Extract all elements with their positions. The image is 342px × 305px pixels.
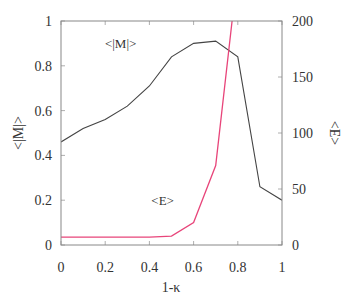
y-right-tick-label: 50 [292,182,306,197]
y-right-tick-label: 0 [292,238,299,253]
series-line-magnetization [61,41,282,200]
series-line-energy [61,0,238,237]
plot-frame [61,21,282,245]
x-axis-label: 1-κ [162,280,181,295]
y-axis-label-left: <|M|> [11,116,26,150]
y-left-tick-label: 0.8 [35,59,53,74]
y-left-tick-label: 0 [45,238,52,253]
y-left-tick-label: 0.2 [35,193,53,208]
chart: 00.20.40.60.8100.20.40.60.81050100150200… [0,0,342,305]
annotation-energy: <E> [151,193,174,208]
tick-labels: 00.20.40.60.8100.20.40.60.81050100150200 [35,14,314,275]
annotation-magnetization: <|M|> [105,36,136,51]
y-right-tick-label: 150 [292,70,313,85]
x-tick-label: 0.2 [96,260,114,275]
x-tick-label: 0.4 [141,260,159,275]
y-left-tick-label: 1 [45,14,52,29]
y-right-tick-label: 200 [292,14,313,29]
x-tick-label: 0 [58,260,65,275]
x-tick-label: 0.6 [185,260,203,275]
y-left-tick-label: 0.4 [35,148,53,163]
y-left-tick-label: 0.6 [35,104,53,119]
axis-ticks [61,21,282,245]
x-tick-label: 1 [279,260,286,275]
y-axis-label-right: <E> [327,121,342,145]
y-right-tick-label: 100 [292,126,313,141]
x-tick-label: 0.8 [229,260,247,275]
